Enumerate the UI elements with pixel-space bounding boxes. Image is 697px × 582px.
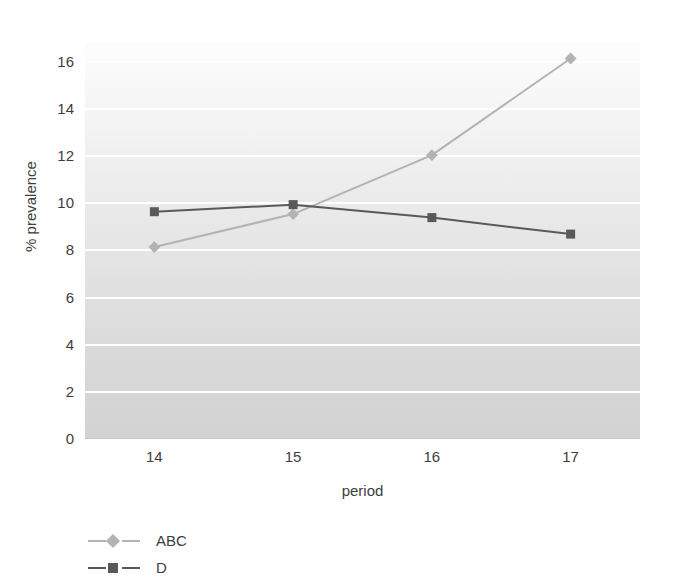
gridline <box>85 297 640 299</box>
legend-marker-diamond-icon <box>106 533 120 547</box>
y-tick-label: 2 <box>38 383 74 398</box>
y-tick-label: 4 <box>38 336 74 351</box>
gridline <box>85 249 640 251</box>
gridline <box>85 61 640 63</box>
gridline <box>85 108 640 110</box>
gridline <box>85 155 640 157</box>
legend-swatch-diamond-icon <box>88 533 140 549</box>
y-tick-label: 12 <box>38 148 74 163</box>
y-tick-label: 14 <box>38 101 74 116</box>
x-axis-line <box>85 438 640 439</box>
legend-label: ABC <box>156 533 187 548</box>
y-tick-label: 6 <box>38 289 74 304</box>
y-axis-ticks: 0246810121416 <box>38 0 74 582</box>
y-axis-title: % prevalence <box>22 137 39 277</box>
legend-item-abc[interactable]: ABC <box>88 527 187 554</box>
gridline <box>85 344 640 346</box>
legend-swatch-square-icon <box>88 560 140 576</box>
x-tick-label: 15 <box>263 448 323 465</box>
y-tick-label: 8 <box>38 242 74 257</box>
gridline <box>85 391 640 393</box>
plot-area <box>85 42 640 438</box>
y-tick-label: 0 <box>38 431 74 446</box>
x-tick-label: 17 <box>541 448 601 465</box>
legend-marker-square-icon <box>108 563 118 573</box>
gridline <box>85 202 640 204</box>
y-tick-label: 10 <box>38 195 74 210</box>
legend-item-d[interactable]: D <box>88 554 187 581</box>
line-chart: 0246810121416 % prevalence 14151617 peri… <box>0 0 697 582</box>
legend-label: D <box>156 560 167 575</box>
x-tick-label: 14 <box>124 448 184 465</box>
y-tick-label: 16 <box>38 53 74 68</box>
chart-legend: ABCD <box>88 527 187 581</box>
x-axis-title: period <box>85 482 640 499</box>
x-tick-label: 16 <box>402 448 462 465</box>
